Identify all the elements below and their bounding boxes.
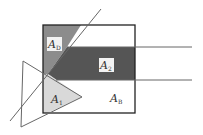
label-a-2: A2 [99, 58, 114, 72]
label-a-b: AB [109, 92, 123, 105]
area-diagram: AD A2 A1 AB [0, 0, 203, 135]
label-a-d: AD [47, 37, 62, 51]
svg-text:AB: AB [109, 92, 123, 105]
